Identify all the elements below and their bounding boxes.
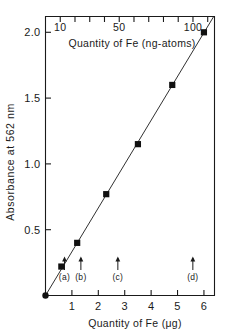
- svg-text:2.0: 2.0: [24, 26, 40, 38]
- annotation-label: (a): [59, 272, 70, 282]
- svg-text:6: 6: [201, 300, 207, 312]
- svg-text:100: 100: [184, 21, 202, 33]
- svg-text:1.5: 1.5: [24, 92, 40, 104]
- data-point: [169, 82, 175, 88]
- data-point: [135, 141, 141, 147]
- top-axis-title: Quantity of Fe (ng-atoms): [68, 37, 195, 49]
- svg-text:50: 50: [113, 21, 125, 33]
- y-axis-title: Absorbance at 562 nm: [4, 103, 16, 221]
- svg-text:1: 1: [69, 300, 75, 312]
- data-point: [42, 292, 48, 298]
- annotation-label: (b): [75, 272, 86, 282]
- x-axis-title: Quantity of Fe (μg): [88, 317, 181, 329]
- svg-text:0.5: 0.5: [24, 224, 40, 236]
- svg-text:3: 3: [122, 300, 128, 312]
- data-point: [103, 191, 109, 197]
- data-point: [58, 263, 64, 269]
- svg-text:5: 5: [174, 300, 180, 312]
- annotation-label: (c): [112, 272, 123, 282]
- data-point: [201, 29, 207, 35]
- svg-text:2: 2: [95, 300, 101, 312]
- calibration-chart: 1050100 0.51.01.52.0 123456 (a)(b)(c)(d)…: [0, 0, 235, 333]
- figure-container: 1050100 0.51.01.52.0 123456 (a)(b)(c)(d)…: [0, 0, 235, 333]
- svg-text:1.0: 1.0: [24, 158, 40, 170]
- svg-text:4: 4: [148, 300, 154, 312]
- svg-text:10: 10: [54, 21, 66, 33]
- data-point: [74, 240, 80, 246]
- annotation-label: (d): [187, 272, 198, 282]
